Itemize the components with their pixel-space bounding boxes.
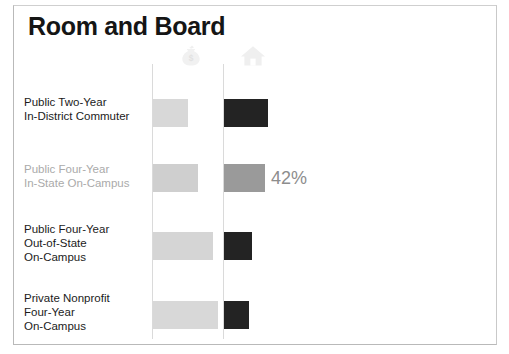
money-bag-icon: $ (178, 43, 204, 69)
page-title: Room and Board (28, 12, 225, 41)
bar-house (224, 99, 268, 127)
bar-money-bag (153, 164, 198, 192)
bar-house (224, 164, 265, 192)
bar-money-bag (153, 99, 188, 127)
house-icon (240, 43, 266, 69)
svg-text:$: $ (189, 53, 194, 63)
row-label: Public Two-Year In-District Commuter (24, 95, 149, 123)
chart-row: Public Four-Year Out-of-State On-Campus (0, 217, 484, 279)
chart-row-highlighted: Public Four-Year In-State On-Campus 42% (0, 152, 484, 214)
bar-money-bag (153, 301, 218, 329)
row-label: Public Four-Year Out-of-State On-Campus (24, 222, 149, 264)
slide-canvas: Room and Board $ Public Two-Year In-Dist… (0, 0, 509, 354)
chart-row: Private Nonprofit Four-Year On-Campus (0, 286, 484, 348)
row-label: Private Nonprofit Four-Year On-Campus (24, 291, 149, 333)
bar-house (224, 232, 252, 260)
row-label: Public Four-Year In-State On-Campus (24, 162, 149, 190)
bar-money-bag (153, 232, 213, 260)
bar-house (224, 301, 249, 329)
bar-value-label: 42% (271, 168, 307, 189)
chart-row: Public Two-Year In-District Commuter (0, 83, 484, 145)
